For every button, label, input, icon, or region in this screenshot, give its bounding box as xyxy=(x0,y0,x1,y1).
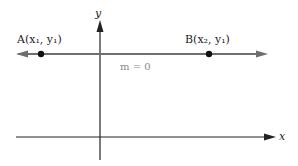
line-right-arrow-icon xyxy=(256,51,268,58)
diagram-canvas xyxy=(0,0,298,166)
y-axis-arrow-icon xyxy=(97,20,104,32)
point-b-label: B(x₂, y₁) xyxy=(185,34,230,45)
x-axis-label: x xyxy=(279,131,285,142)
slope-label: m = 0 xyxy=(120,62,151,72)
point-a-label: A(x₁, y₁) xyxy=(17,34,62,45)
x-axis-arrow-icon xyxy=(264,134,276,141)
y-axis-label: y xyxy=(95,8,101,19)
line-left-arrow-icon xyxy=(16,51,28,58)
point-b-dot xyxy=(206,51,212,57)
point-a-dot xyxy=(38,51,44,57)
